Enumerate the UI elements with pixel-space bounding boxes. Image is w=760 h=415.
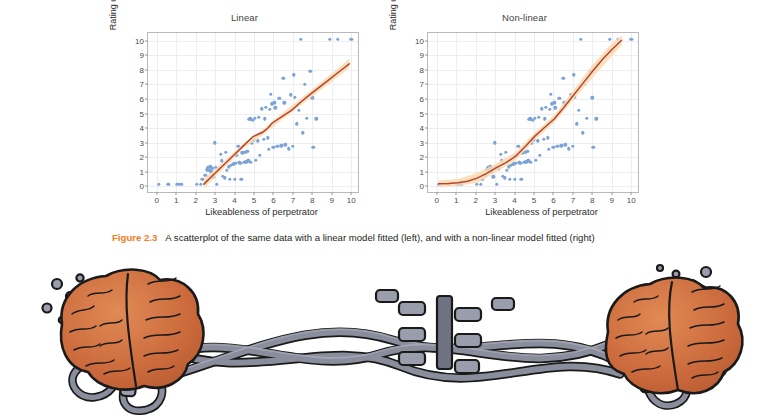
y-tick-mark: [425, 142, 428, 143]
y-tick-label: 9: [140, 51, 144, 60]
x-tick-mark: [215, 192, 216, 195]
x-tick-label: 2: [473, 196, 477, 205]
y-tick-label: 7: [420, 80, 424, 89]
y-tick-mark: [145, 84, 148, 85]
illustration-svg: [0, 262, 760, 415]
x-tick-label: 0: [155, 196, 159, 205]
y-axis-label-nonlinear: Rating of deed: [388, 0, 400, 56]
y-tick-mark: [145, 186, 148, 187]
x-tick-label: 3: [213, 196, 217, 205]
y-tick-mark: [145, 69, 148, 70]
x-tick-label: 2: [193, 196, 197, 205]
plot-area-linear: 012345678910012345678910: [147, 32, 359, 193]
x-tick-mark: [331, 192, 332, 195]
x-tick-mark: [456, 192, 457, 195]
y-tick-mark: [425, 128, 428, 129]
x-tick-mark: [176, 192, 177, 195]
plot-area-nonlinear: 012345678910012345678910: [427, 32, 639, 193]
x-tick-mark: [572, 192, 573, 195]
y-tick-label: 5: [420, 109, 424, 118]
figure-number: Figure 2.3: [112, 232, 157, 243]
y-tick-mark: [425, 69, 428, 70]
y-tick-label: 8: [420, 65, 424, 74]
x-tick-label: 5: [532, 196, 536, 205]
x-tick-label: 6: [551, 196, 555, 205]
x-tick-label: 9: [330, 196, 334, 205]
x-tick-mark: [631, 192, 632, 195]
confidence-band: [439, 35, 622, 187]
x-axis-label-linear: Likeableness of perpetrator: [146, 207, 377, 220]
y-tick-mark: [425, 98, 428, 99]
confidence-band: [204, 59, 349, 189]
x-tick-label: 4: [512, 196, 516, 205]
y-tick-mark: [425, 55, 428, 56]
y-tick-label: 4: [140, 124, 144, 133]
brain-right: [606, 265, 743, 406]
y-tick-label: 10: [415, 36, 424, 45]
y-tick-label: 6: [140, 94, 144, 103]
y-tick-label: 9: [420, 51, 424, 60]
x-tick-label: 7: [291, 196, 295, 205]
x-tick-mark: [514, 192, 515, 195]
x-tick-mark: [534, 192, 535, 195]
y-tick-mark: [145, 142, 148, 143]
x-tick-mark: [156, 192, 157, 195]
x-tick-label: 4: [232, 196, 236, 205]
y-tick-mark: [145, 40, 148, 41]
y-tick-mark: [425, 84, 428, 85]
x-tick-label: 1: [454, 196, 458, 205]
brains-cables-illustration: [0, 262, 760, 415]
y-tick-mark: [425, 186, 428, 187]
x-tick-mark: [495, 192, 496, 195]
y-tick-mark: [425, 171, 428, 172]
brain-left: [43, 270, 204, 411]
y-tick-mark: [145, 55, 148, 56]
x-tick-mark: [312, 192, 313, 195]
regression-line: [439, 40, 622, 184]
y-tick-label: 0: [140, 182, 144, 191]
x-tick-label: 6: [271, 196, 275, 205]
x-tick-mark: [592, 192, 593, 195]
y-tick-label: 0: [420, 182, 424, 191]
x-tick-mark: [351, 192, 352, 195]
figure-page: Linear Rating of deed 012345678910012345…: [0, 0, 760, 415]
x-axis-label-nonlinear: Likeableness of perpetrator: [426, 207, 657, 220]
figure-caption: Figure 2.3 A scatterplot of the same dat…: [112, 231, 650, 245]
y-tick-mark: [145, 128, 148, 129]
x-tick-label: 7: [571, 196, 575, 205]
chart-panel-linear: Linear Rating of deed 012345678910012345…: [112, 10, 377, 220]
x-tick-label: 5: [252, 196, 256, 205]
x-tick-mark: [273, 192, 274, 195]
y-tick-label: 1: [420, 167, 424, 176]
fit-line-linear: [148, 33, 358, 192]
x-tick-label: 0: [435, 196, 439, 205]
x-tick-mark: [234, 192, 235, 195]
figure-2-3: Linear Rating of deed 012345678910012345…: [0, 0, 760, 270]
x-tick-label: 8: [310, 196, 314, 205]
x-tick-mark: [195, 192, 196, 195]
y-tick-label: 2: [140, 153, 144, 162]
y-tick-label: 4: [420, 124, 424, 133]
x-tick-mark: [254, 192, 255, 195]
y-tick-label: 2: [420, 153, 424, 162]
y-tick-label: 7: [140, 80, 144, 89]
y-tick-label: 10: [135, 36, 144, 45]
x-tick-label: 1: [174, 196, 178, 205]
figure-caption-text: A scatterplot of the same data with a li…: [165, 232, 594, 243]
x-tick-label: 9: [610, 196, 614, 205]
y-tick-mark: [145, 98, 148, 99]
charts-row: Linear Rating of deed 012345678910012345…: [112, 10, 657, 220]
x-tick-label: 8: [590, 196, 594, 205]
y-tick-mark: [145, 171, 148, 172]
y-tick-label: 3: [420, 138, 424, 147]
chart-title-linear: Linear: [112, 10, 377, 26]
y-tick-mark: [425, 113, 428, 114]
y-tick-mark: [425, 157, 428, 158]
y-tick-mark: [425, 40, 428, 41]
y-tick-label: 6: [420, 94, 424, 103]
y-tick-mark: [145, 157, 148, 158]
x-tick-mark: [436, 192, 437, 195]
y-tick-mark: [145, 113, 148, 114]
y-tick-label: 3: [140, 138, 144, 147]
chart-panel-nonlinear: Non-linear Rating of deed 01234567891001…: [392, 10, 657, 220]
